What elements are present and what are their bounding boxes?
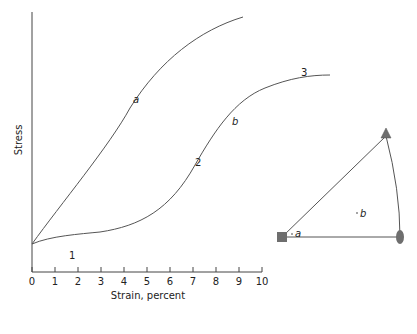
region-1-label: 1 [69,250,75,261]
inset-a-label: a [295,228,301,239]
triangle-marker-icon [381,128,391,138]
region-3-label: 3 [301,67,307,78]
inset-b-label: b [360,208,366,219]
svg-text:9: 9 [236,276,242,287]
svg-text:10: 10 [256,276,269,287]
curve-b-label: b [232,116,238,127]
svg-text:3: 3 [98,276,104,287]
stress-strain-diagram: 0 1 2 3 4 5 6 7 8 9 10 Strain, percent S… [0,0,417,334]
svg-text:6: 6 [167,276,173,287]
svg-text:7: 7 [190,276,196,287]
svg-text:2: 2 [75,276,81,287]
curve-a [32,17,243,244]
y-axis-label: Stress [13,125,24,156]
curve-a-label: a [133,94,139,105]
region-2-label: 2 [195,157,201,168]
pivot-square-icon [277,232,287,242]
x-tick-labels: 0 1 2 3 4 5 6 7 8 9 10 [29,276,269,287]
ellipse-marker-icon [396,230,404,244]
x-axis-label: Strain, percent [111,290,185,301]
svg-text:8: 8 [213,276,219,287]
x-ticks [32,267,262,272]
svg-text:4: 4 [121,276,127,287]
svg-text:1: 1 [52,276,58,287]
inset-schematic: a b [277,128,404,244]
curve-b [32,75,330,244]
svg-text:5: 5 [144,276,150,287]
svg-text:0: 0 [29,276,35,287]
